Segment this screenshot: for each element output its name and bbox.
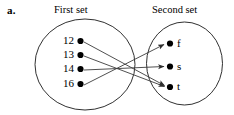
node-dot-16 <box>77 81 83 87</box>
first-set-circle <box>35 19 135 110</box>
mapping-diagram-figure: a. First set Second set 12 13 14 16 f s … <box>0 0 234 115</box>
first-set-item-12: 12 <box>52 35 74 46</box>
node-dot-s <box>167 63 173 69</box>
diagram-canvas <box>0 0 234 115</box>
second-set-item-s: s <box>177 61 191 72</box>
first-set-item-14: 14 <box>52 63 74 74</box>
arrow-13-to-t <box>84 56 165 87</box>
node-dot-12 <box>77 38 83 44</box>
node-dot-14 <box>77 66 83 72</box>
second-set-item-f: f <box>177 38 191 49</box>
first-set-item-13: 13 <box>52 49 74 60</box>
node-dot-f <box>167 40 173 46</box>
node-dot-t <box>167 84 173 90</box>
arrow-14-to-s <box>84 67 164 71</box>
first-set-item-16: 16 <box>52 78 74 89</box>
second-set-item-t: t <box>177 81 191 92</box>
node-dot-13 <box>77 52 83 58</box>
